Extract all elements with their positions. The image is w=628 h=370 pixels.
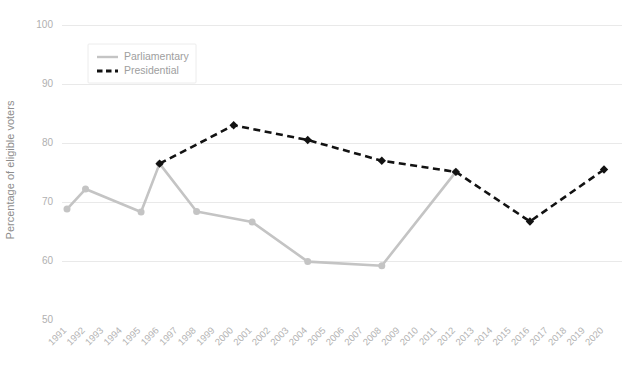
- data-point-parliamentary-1998: [193, 208, 200, 215]
- y-tick-90: 90: [42, 78, 54, 89]
- y-tick-100: 100: [36, 19, 53, 30]
- data-point-parliamentary-2004: [304, 258, 311, 265]
- y-tick-60: 60: [42, 255, 54, 266]
- legend-label-presidential: Presidential: [124, 64, 179, 76]
- data-point-parliamentary-1991: [64, 206, 71, 213]
- line-chart: 1009080706050 Percentage of eligible vot…: [0, 0, 628, 370]
- y-tick-50: 50: [42, 314, 54, 325]
- y-axis-title: Percentage of eligible voters: [4, 100, 16, 239]
- chart-legend: Parliamentary Presidential: [88, 44, 196, 83]
- data-point-parliamentary-2008: [378, 262, 385, 269]
- legend-label-parliamentary: Parliamentary: [124, 50, 190, 62]
- data-point-parliamentary-1995: [138, 209, 145, 216]
- data-point-parliamentary-1992: [82, 186, 89, 193]
- chart-container: 1009080706050 Percentage of eligible vot…: [0, 0, 628, 370]
- y-tick-80: 80: [42, 137, 54, 148]
- data-point-parliamentary-2001: [249, 219, 256, 226]
- y-tick-70: 70: [42, 196, 54, 207]
